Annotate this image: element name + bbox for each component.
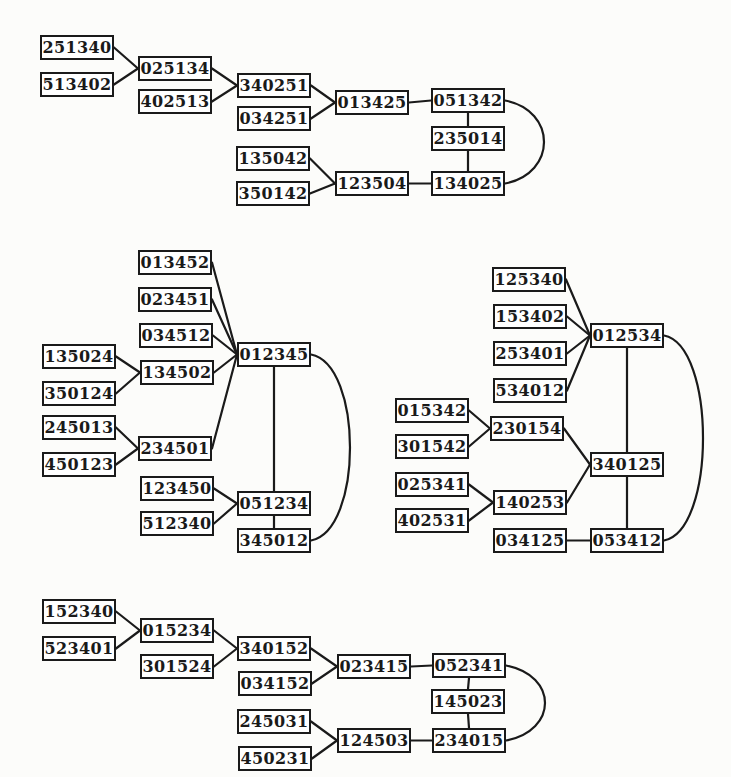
node-034125: 034125	[493, 528, 567, 553]
edge-034251-013425	[311, 103, 335, 119]
edge-051342-134025	[505, 101, 544, 184]
node-134502: 134502	[140, 360, 214, 385]
node-301542: 301542	[395, 434, 469, 459]
node-034512: 034512	[139, 323, 213, 348]
edge-140253-340125	[567, 465, 590, 503]
node-152340: 152340	[42, 599, 116, 624]
node-015342: 015342	[395, 398, 469, 423]
edge-301524-340152	[214, 649, 237, 667]
node-350124: 350124	[42, 381, 116, 406]
node-025341: 025341	[395, 472, 469, 497]
node-135024: 135024	[42, 344, 116, 369]
node-034152: 034152	[238, 671, 312, 696]
edge-152340-015234	[116, 612, 140, 631]
edge-245013-234501	[116, 428, 138, 449]
node-145023: 145023	[431, 689, 505, 714]
edge-450231-124503	[312, 741, 337, 759]
node-023451: 023451	[138, 287, 212, 312]
node-013452: 013452	[138, 250, 212, 275]
node-534012: 534012	[493, 378, 567, 403]
edge-234501-012345	[212, 355, 237, 449]
node-350142: 350142	[236, 181, 310, 206]
edge-135024-134502	[116, 357, 140, 373]
edge-023415-052341	[411, 666, 432, 667]
edge-025341-140253	[469, 485, 493, 503]
node-513402: 513402	[40, 72, 114, 97]
edge-052341-234015	[506, 666, 545, 741]
edge-230154-340125	[564, 429, 590, 465]
node-235014: 235014	[431, 126, 505, 151]
node-230154: 230154	[490, 416, 564, 441]
edge-301542-230154	[469, 429, 490, 447]
node-124503: 124503	[337, 728, 411, 753]
edge-513402-025134	[114, 69, 138, 85]
node-123450: 123450	[140, 476, 214, 501]
node-523401: 523401	[42, 636, 116, 661]
node-245013: 245013	[42, 415, 116, 440]
edge-350124-134502	[116, 373, 140, 394]
node-015234: 015234	[140, 618, 214, 643]
edge-013425-051342	[409, 101, 431, 103]
node-125340: 125340	[492, 267, 566, 292]
node-034251: 034251	[237, 106, 311, 131]
edge-245031-124503	[311, 722, 337, 741]
node-051234: 051234	[237, 491, 311, 516]
node-135042: 135042	[236, 146, 310, 171]
node-123504: 123504	[335, 171, 409, 196]
node-134025: 134025	[431, 171, 505, 196]
node-345012: 345012	[237, 528, 311, 553]
edge-340152-023415	[311, 649, 337, 667]
edge-145023-234015	[468, 714, 469, 728]
edge-402531-140253	[469, 503, 493, 521]
node-340152: 340152	[237, 636, 311, 661]
edge-350142-123504	[310, 184, 335, 194]
node-301524: 301524	[140, 654, 214, 679]
edge-450123-234501	[116, 449, 138, 465]
edge-251340-025134	[114, 48, 138, 69]
node-153402: 153402	[493, 304, 567, 329]
node-251340: 251340	[40, 35, 114, 60]
node-402531: 402531	[395, 508, 469, 533]
node-023415: 023415	[337, 654, 411, 679]
node-450123: 450123	[42, 452, 116, 477]
edge-012345-345012	[311, 355, 350, 541]
edge-052341-145023	[468, 678, 469, 689]
edge-015342-230154	[469, 411, 490, 429]
edge-025134-340251	[212, 69, 237, 86]
node-340251: 340251	[237, 73, 311, 98]
edge-512340-051234	[214, 504, 237, 524]
node-012345: 012345	[237, 342, 311, 367]
node-140253: 140253	[493, 490, 567, 515]
node-012534: 012534	[590, 323, 664, 348]
rotation-tree-figure: 2513405134020251344025133402510342511350…	[0, 0, 731, 777]
edge-125340-012534	[566, 280, 590, 336]
node-340125: 340125	[590, 452, 664, 477]
edge-135042-123504	[310, 159, 335, 184]
node-402513: 402513	[138, 89, 212, 114]
node-245031: 245031	[237, 709, 311, 734]
edge-340251-013425	[311, 86, 335, 103]
node-053412: 053412	[590, 528, 664, 553]
node-450231: 450231	[238, 746, 312, 771]
node-234501: 234501	[138, 436, 212, 461]
node-013425: 013425	[335, 90, 409, 115]
edge-012534-053412	[664, 336, 703, 541]
edge-123450-051234	[214, 489, 237, 504]
node-512340: 512340	[140, 511, 214, 536]
edge-523401-015234	[116, 631, 140, 649]
edge-015234-340152	[214, 631, 237, 649]
node-234015: 234015	[432, 728, 506, 753]
node-253401: 253401	[493, 341, 567, 366]
edge-034152-023415	[312, 667, 337, 684]
node-052341: 052341	[432, 653, 506, 678]
node-051342: 051342	[431, 88, 505, 113]
node-025134: 025134	[138, 56, 212, 81]
edge-402513-340251	[212, 86, 237, 102]
